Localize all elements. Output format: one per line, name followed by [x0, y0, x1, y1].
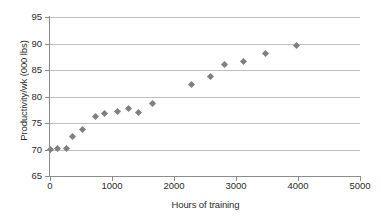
- x-tick-label: 2000: [149, 180, 199, 191]
- data-point-marker: [149, 100, 156, 107]
- x-tick-label: 5000: [335, 180, 381, 191]
- y-tick-mark: [45, 123, 49, 124]
- data-point-marker: [240, 58, 247, 65]
- data-point-marker: [54, 145, 61, 152]
- data-point-marker: [125, 105, 132, 112]
- data-point-marker: [92, 113, 99, 120]
- y-tick-label: 95: [16, 12, 42, 22]
- data-point-marker: [114, 108, 121, 115]
- y-tick-mark: [45, 176, 49, 177]
- gridline-y: [50, 70, 360, 71]
- gridline-y: [50, 17, 360, 18]
- data-point-marker: [79, 126, 86, 133]
- y-tick-mark: [45, 17, 49, 18]
- y-tick-label: 75: [16, 118, 42, 128]
- data-point-marker: [69, 133, 76, 140]
- y-tick-label: 80: [16, 92, 42, 102]
- plot-area: [50, 17, 360, 176]
- y-tick-label: 85: [16, 65, 42, 75]
- gridline-y: [50, 150, 360, 151]
- data-point-marker: [221, 61, 228, 68]
- y-tick-mark: [45, 150, 49, 151]
- data-point-marker: [293, 42, 300, 49]
- x-axis-title: Hours of training: [50, 199, 361, 210]
- x-tick-label: 4000: [273, 180, 323, 191]
- data-point-marker: [101, 110, 108, 117]
- y-tick-label: 90: [16, 39, 42, 49]
- data-point-marker: [188, 81, 195, 88]
- x-tick-mark: [360, 177, 361, 181]
- scatter-chart: Productivity/wk (000 lbs) 65707580859095…: [0, 0, 381, 223]
- y-tick-label: 70: [16, 145, 42, 155]
- x-tick-mark: [298, 177, 299, 181]
- gridline-y: [50, 123, 360, 124]
- gridline-y: [50, 44, 360, 45]
- y-tick-mark: [45, 44, 49, 45]
- x-axis-line: [49, 176, 361, 177]
- data-point-marker: [207, 73, 214, 80]
- x-tick-mark: [174, 177, 175, 181]
- data-point-marker: [262, 49, 269, 56]
- y-tick-mark: [45, 97, 49, 98]
- x-tick-mark: [50, 177, 51, 181]
- x-tick-mark: [236, 177, 237, 181]
- y-axis-line: [49, 16, 50, 177]
- y-tick-mark: [45, 70, 49, 71]
- x-tick-label: 1000: [87, 180, 137, 191]
- data-point-marker: [63, 145, 70, 152]
- x-tick-mark: [112, 177, 113, 181]
- x-tick-label: 3000: [211, 180, 261, 191]
- data-point-marker: [135, 109, 142, 116]
- x-tick-label: 0: [25, 180, 75, 191]
- gridline-y: [50, 97, 360, 98]
